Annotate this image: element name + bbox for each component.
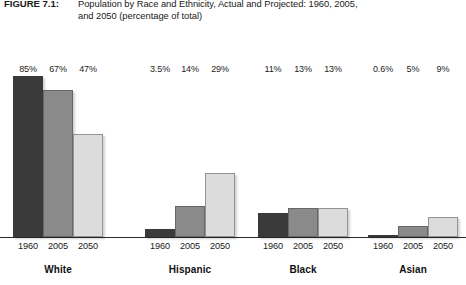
bar-slot-2005: 67% (43, 76, 73, 237)
bar-black-2050[interactable]: 13% (318, 208, 348, 237)
bar-black-2005[interactable]: 13% (288, 208, 318, 237)
bars-row: 3.5%14%29% (145, 76, 235, 237)
bar-slot-1960: 85% (13, 76, 43, 237)
bar-value-label: 29% (211, 64, 229, 74)
bars-row: 0.6%5%9% (368, 76, 458, 237)
figure-number-label: FIGURE 7.1: (4, 0, 59, 10)
group-label-black: Black (258, 264, 348, 275)
figure-title-line-1: Population by Race and Ethnicity, Actual… (78, 0, 357, 10)
bar-group-hispanic: 3.5%14%29%196020052050Hispanic (145, 28, 235, 285)
bar-value-label: 11% (264, 64, 281, 74)
bar-slot-1960: 0.6% (368, 76, 398, 237)
year-tick-row: 196020052050 (368, 241, 458, 251)
x-tick-label-2005: 2005 (288, 241, 318, 251)
bar-slot-2050: 9% (428, 76, 458, 237)
bar-slot-2005: 14% (175, 76, 205, 237)
bar-group-black: 11%13%13%196020052050Black (258, 28, 348, 285)
bar-slot-1960: 11% (258, 76, 288, 237)
bar-slot-2005: 13% (288, 76, 318, 237)
bar-slot-1960: 3.5% (145, 76, 175, 237)
x-tick-label-1960: 1960 (13, 241, 43, 251)
bar-asian-1960[interactable]: 0.6% (368, 235, 398, 237)
year-tick-row: 196020052050 (13, 241, 103, 251)
year-tick-row: 196020052050 (258, 241, 348, 251)
bar-slot-2050: 29% (205, 76, 235, 237)
x-tick-label-2005: 2005 (398, 241, 428, 251)
bar-value-label: 67% (49, 64, 67, 74)
bar-value-label: 3.5% (150, 64, 170, 74)
bar-slot-2005: 5% (398, 76, 428, 237)
bar-value-label: 5% (407, 64, 420, 74)
bar-slot-2050: 47% (73, 76, 103, 237)
x-tick-label-2005: 2005 (175, 241, 205, 251)
x-tick-label-2050: 2050 (73, 241, 103, 251)
x-tick-label-1960: 1960 (258, 241, 288, 251)
x-tick-label-2050: 2050 (318, 241, 348, 251)
x-tick-label-2050: 2050 (205, 241, 235, 251)
bar-asian-2005[interactable]: 5% (398, 226, 428, 237)
bar-hispanic-2005[interactable]: 14% (175, 206, 205, 237)
bar-value-label: 9% (437, 64, 450, 74)
x-tick-label-2005: 2005 (43, 241, 73, 251)
bar-black-1960[interactable]: 11% (258, 213, 288, 237)
bar-value-label: 85% (19, 64, 37, 74)
figure-caption: FIGURE 7.1: Population by Race and Ethni… (0, 0, 466, 25)
figure-title-line-2: and 2050 (percentage of total) (78, 10, 202, 22)
bar-chart-plot-area: 85%67%47%196020052050White3.5%14%29%1960… (0, 28, 466, 285)
year-tick-row: 196020052050 (145, 241, 235, 251)
group-label-hispanic: Hispanic (145, 264, 235, 275)
bar-value-label: 14% (181, 64, 199, 74)
bar-hispanic-2050[interactable]: 29% (205, 173, 235, 237)
bar-group-white: 85%67%47%196020052050White (13, 28, 103, 285)
bars-row: 11%13%13% (258, 76, 348, 237)
group-label-asian: Asian (368, 264, 458, 275)
x-tick-label-1960: 1960 (368, 241, 398, 251)
bar-group-asian: 0.6%5%9%196020052050Asian (368, 28, 458, 285)
bar-value-label: 47% (79, 64, 97, 74)
bar-white-2050[interactable]: 47% (73, 134, 103, 237)
bar-hispanic-1960[interactable]: 3.5% (145, 229, 175, 237)
bar-white-1960[interactable]: 85% (13, 76, 43, 237)
bar-value-label: 13% (294, 64, 312, 74)
bar-value-label: 0.6% (373, 64, 393, 74)
x-tick-label-2050: 2050 (428, 241, 458, 251)
bar-value-label: 13% (324, 64, 342, 74)
bar-white-2005[interactable]: 67% (43, 90, 73, 237)
bar-slot-2050: 13% (318, 76, 348, 237)
bars-row: 85%67%47% (13, 76, 103, 237)
x-tick-label-1960: 1960 (145, 241, 175, 251)
group-label-white: White (13, 264, 103, 275)
bar-asian-2050[interactable]: 9% (428, 217, 458, 237)
